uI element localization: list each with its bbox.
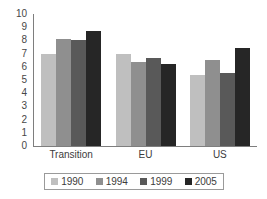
bar — [190, 75, 205, 146]
bar — [131, 62, 146, 146]
legend-entry: 1990 — [51, 177, 83, 187]
legend-swatch-icon — [140, 178, 147, 185]
bar-chart-figure: 012345678910 TransitionEUUS 199019941999… — [0, 0, 267, 199]
y-axis-tick-label: 5 — [21, 75, 27, 85]
y-axis-tick-label: 4 — [21, 88, 27, 98]
y-axis-tick-label: 9 — [21, 22, 27, 32]
x-axis-category-label: US — [213, 149, 227, 161]
legend-label: 1999 — [150, 177, 172, 187]
legend-swatch-icon — [96, 178, 103, 185]
legend-swatch-icon — [185, 178, 192, 185]
y-axis-tick-label: 7 — [21, 49, 27, 59]
y-axis-tick-label: 6 — [21, 62, 27, 72]
x-axis-category-labels: TransitionEUUS — [33, 149, 257, 163]
bar — [205, 60, 220, 146]
bar — [86, 31, 101, 147]
y-axis-tick-label: 1 — [21, 128, 27, 138]
bar-group — [116, 14, 176, 146]
y-axis-tick-label: 10 — [16, 9, 27, 19]
plot-area — [33, 14, 257, 147]
legend-entry: 1994 — [96, 177, 128, 187]
legend-entry: 2005 — [185, 177, 217, 187]
bar-group — [41, 14, 101, 146]
bar — [71, 40, 86, 146]
y-axis-tick-label: 3 — [21, 101, 27, 111]
y-axis-tick-label: 2 — [21, 115, 27, 125]
legend-label: 1994 — [106, 177, 128, 187]
x-axis-category-label: Transition — [49, 149, 93, 161]
bar — [146, 58, 161, 146]
bar — [56, 39, 71, 146]
legend-swatch-icon — [51, 178, 58, 185]
bar — [116, 54, 131, 146]
y-axis-tick-labels: 012345678910 — [0, 14, 31, 147]
chart-legend: 1990199419992005 — [44, 173, 224, 190]
bars-layer — [34, 14, 257, 146]
bar — [235, 48, 250, 146]
legend-label: 1990 — [61, 177, 83, 187]
bar — [161, 64, 176, 146]
legend-label: 2005 — [195, 177, 217, 187]
x-axis-line — [33, 146, 257, 147]
legend-entry: 1999 — [140, 177, 172, 187]
bar — [220, 73, 235, 146]
x-axis-category-label: EU — [139, 149, 153, 161]
bar-group — [190, 14, 250, 146]
y-axis-tick-label: 0 — [21, 141, 27, 151]
bar — [41, 54, 56, 146]
y-axis-tick-label: 8 — [21, 35, 27, 45]
